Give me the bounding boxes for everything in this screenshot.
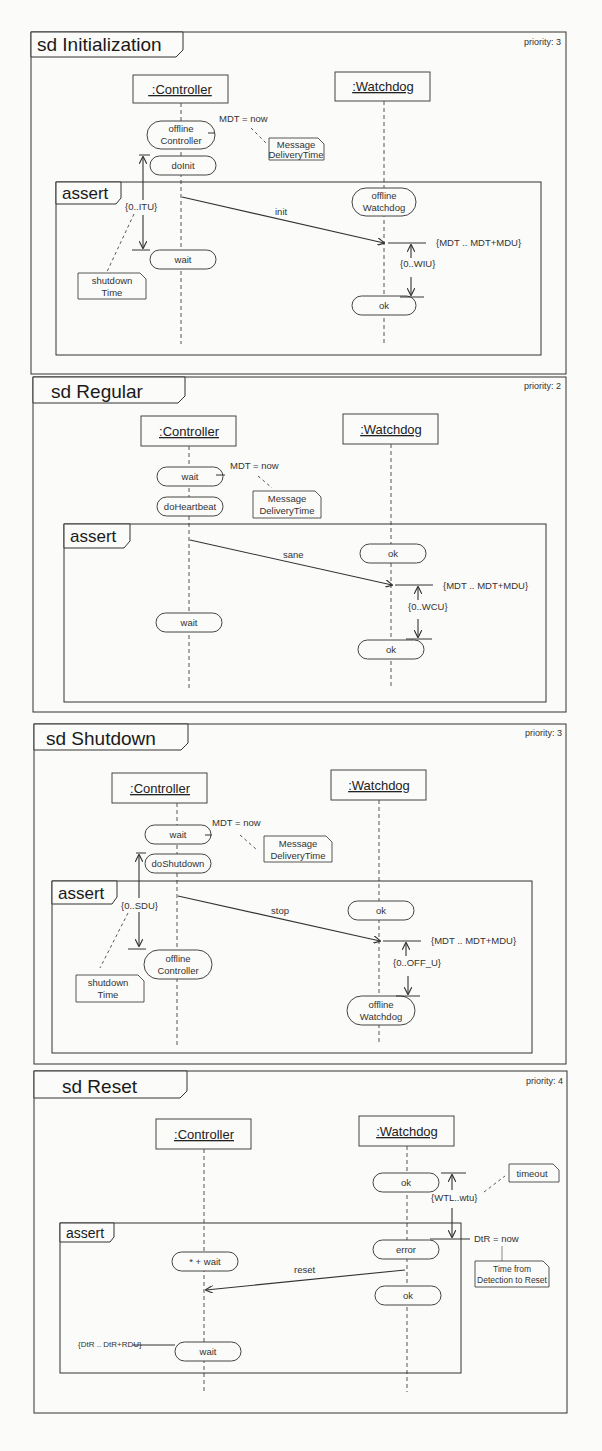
note-text: Message — [268, 493, 307, 504]
state-label: wait — [199, 1346, 217, 1357]
diagram-title: sd Regular — [51, 381, 144, 402]
message-label: init — [275, 206, 288, 217]
interval-label: {0..SDU} — [121, 900, 158, 911]
state-label: wait — [180, 617, 198, 628]
state-label: ok — [403, 1290, 413, 1301]
note-connector — [484, 1176, 505, 1192]
lifeline-label: :Watchdog — [360, 422, 422, 437]
diagram-title: sd Reset — [62, 1076, 138, 1097]
note-text: shutdown — [88, 977, 129, 988]
note-text: Time from — [493, 1264, 531, 1274]
window-label: {MDT .. MDT+MDU} — [443, 580, 528, 591]
message-stop[interactable] — [178, 896, 380, 941]
window-label: {MDT .. MDT+MDU} — [436, 237, 521, 248]
priority-label: priority: 3 — [525, 728, 562, 738]
state-label: doShutdown — [152, 858, 205, 869]
note-connector — [258, 476, 272, 488]
assert-fragment — [64, 524, 546, 702]
state-label: offline — [168, 123, 193, 134]
assert-label: assert — [58, 884, 105, 903]
note-connector — [240, 835, 256, 849]
state-label: Controller — [157, 965, 198, 976]
state-label: Watchdog — [363, 202, 405, 213]
state-label: wait — [181, 471, 199, 482]
note-text: DeliveryTime — [270, 850, 325, 861]
lifeline-label: :Watchdog — [352, 79, 414, 94]
note-text: shutdown — [92, 275, 133, 286]
mdt-annotation: MDT = now — [212, 817, 261, 828]
diagram-canvas: sd Initialization priority: 3 :Controlle… — [0, 0, 602, 1451]
state-label: Controller — [160, 135, 201, 146]
state-label: offline — [368, 999, 393, 1010]
message-label: reset — [294, 1264, 315, 1275]
priority-label: priority: 3 — [524, 37, 561, 47]
lifeline-label: :Watchdog — [376, 1124, 438, 1139]
note-connector — [100, 913, 128, 968]
duration-label: {0..OFF_U} — [393, 957, 441, 968]
interval-label: {0..ITU} — [125, 201, 157, 212]
note-text: Time — [98, 989, 119, 1000]
message-sane[interactable] — [190, 540, 392, 585]
lifeline-label: :Watchdog — [348, 778, 410, 793]
assert-label: assert — [62, 184, 109, 203]
state-label: ok — [386, 644, 396, 655]
state-label: ok — [401, 1177, 411, 1188]
priority-label: priority: 4 — [526, 1076, 563, 1086]
diagram-initialization: sd Initialization priority: 3 :Controlle… — [31, 32, 566, 374]
note-text: DeliveryTime — [268, 149, 323, 160]
note-text: timeout — [516, 1168, 548, 1179]
note-connector — [251, 128, 266, 143]
state-label: doHeartbeat — [164, 501, 217, 512]
diagram-reset: sd Reset priority: 4 :Controller :Watchd… — [34, 1071, 567, 1413]
mdt-annotation: MDT = now — [230, 460, 279, 471]
note-text: Detection to Reset — [477, 1275, 548, 1285]
priority-label: priority: 2 — [524, 381, 561, 391]
message-label: stop — [271, 905, 289, 916]
assert-label: assert — [70, 527, 117, 546]
dtr-annotation: DtR = now — [474, 1233, 519, 1244]
note-text: DeliveryTime — [259, 505, 314, 516]
window-label: {MDT .. MDT+MDU} — [431, 935, 516, 946]
lifeline-label: :Controller — [159, 424, 220, 439]
state-label: ok — [376, 905, 386, 916]
duration-label: {0..WCU} — [408, 601, 448, 612]
lifeline-label: :Controller — [130, 781, 191, 796]
diagram-regular: sd Regular priority: 2 :Controller :Watc… — [33, 377, 566, 712]
diagram-title: sd Shutdown — [46, 728, 156, 749]
state-label: error — [396, 1244, 416, 1255]
state-label: ok — [388, 548, 398, 559]
state-label: * + wait — [189, 1256, 221, 1267]
note-text: Message — [279, 838, 318, 849]
diagram-title: sd Initialization — [37, 34, 162, 55]
diagram-shutdown: sd Shutdown priority: 3 :Controller :Wat… — [34, 724, 566, 1064]
reset-window-label: {DtR .. DtR+RDU} — [78, 1340, 142, 1349]
timeout-range-label: {WTL..wtu} — [431, 1192, 477, 1203]
assert-label: assert — [66, 1225, 104, 1241]
state-label: offline — [371, 190, 396, 201]
state-label: offline — [165, 953, 190, 964]
note-text: Time — [102, 287, 123, 298]
lifeline-label: :Controller — [174, 1127, 235, 1142]
duration-label: {0..WIU} — [400, 258, 435, 269]
note-connector — [105, 214, 134, 276]
state-label: wait — [169, 829, 187, 840]
lifeline-label: :Controller — [148, 82, 212, 97]
mdt-annotation: MDT = now — [219, 113, 268, 124]
state-label: ok — [379, 300, 389, 311]
state-label: Watchdog — [360, 1011, 402, 1022]
message-label: sane — [283, 549, 304, 560]
state-label: wait — [174, 254, 192, 265]
state-label: doInit — [171, 160, 195, 171]
